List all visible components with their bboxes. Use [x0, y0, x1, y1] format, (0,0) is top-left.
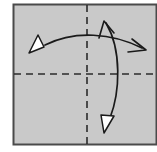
- origami-diagram-svg: Origami folding step: square sheet with …: [0, 0, 157, 152]
- origami-diagram-container: Origami folding step: square sheet with …: [0, 0, 157, 152]
